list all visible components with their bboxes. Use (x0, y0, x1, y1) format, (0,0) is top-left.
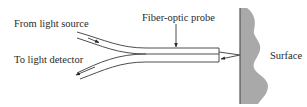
probe-label: Fiber-optic probe (142, 12, 215, 23)
source-label: From light source (14, 18, 89, 29)
probe-body (146, 48, 219, 62)
surface-fill (240, 8, 268, 104)
detector-arrow-icon (76, 67, 95, 75)
source-fiber (77, 32, 146, 54)
detector-label: To light detector (14, 54, 84, 65)
light-cone (219, 52, 240, 59)
detector-fiber (76, 54, 146, 79)
surface-label: Surface (270, 50, 302, 61)
fiber-optic-probe-diagram: From light source To light detector Fibe… (0, 0, 307, 107)
surface (240, 8, 268, 104)
